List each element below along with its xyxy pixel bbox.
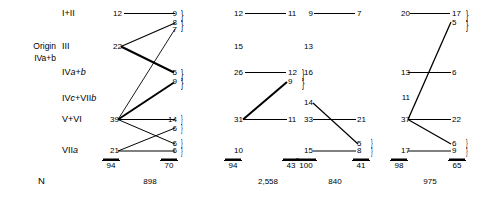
total-p1-left: 94 — [102, 160, 120, 170]
n-value-p2: 2,558 — [240, 178, 296, 186]
brace-p2-group1b: } — [302, 76, 304, 89]
total-p4-left: 98 — [390, 160, 408, 170]
cell-p3-left-3: 16 — [297, 69, 313, 77]
brace-p1-group4b: } — [181, 147, 183, 157]
link-p1-e — [118, 83, 174, 120]
link-p2-c — [243, 82, 287, 120]
cell-p2-left-1: 12 — [225, 10, 243, 18]
total-p4-right: 65 — [448, 160, 466, 170]
cell-p3-left-1: 9 — [297, 10, 313, 18]
cell-p3-left-2: 13 — [297, 43, 313, 51]
brace-p4-group2b: } — [466, 147, 468, 157]
cell-p4-right-4: 22 — [452, 116, 468, 124]
link-p4-b — [408, 22, 451, 120]
cell-p2-left-2: 15 — [225, 43, 243, 51]
link-p4-e — [408, 120, 451, 145]
row-label-i-ii: I+II — [62, 9, 75, 18]
cell-p1-right-9: 6 — [161, 147, 177, 155]
cell-p4-left-2: 13 — [392, 69, 410, 77]
cell-p3-left-6: 15 — [297, 147, 313, 155]
n-value-p3: 840 — [310, 178, 360, 186]
row-label-ivc-viib: IVc+VIIb — [62, 94, 96, 103]
flow-diagram-figure: Origin IVa+b I+II III IVa+b IVc+VIIb V+V… — [0, 0, 480, 197]
cell-p1-left-1: 12 — [104, 10, 122, 18]
cell-p4-right-3: 6 — [452, 69, 468, 77]
total-p3-left: 100 — [295, 160, 317, 170]
cell-p2-left-3: 26 — [225, 69, 243, 77]
cell-p3-right-2: 21 — [357, 116, 373, 124]
origin-axis-label-line2: IVa+b — [12, 54, 56, 63]
brace-p1-group3b: } — [181, 124, 183, 134]
cell-p4-left-3: 11 — [392, 94, 410, 102]
total-p1-right: 70 — [160, 160, 178, 170]
cell-p1-right-7: 6 — [161, 125, 177, 133]
brace-p3-group1b: } — [371, 147, 373, 157]
cell-p1-left-6: 21 — [101, 147, 119, 155]
brace-p1-group1b: } — [181, 18, 183, 31]
cell-p1-right-4: 5 — [163, 69, 177, 77]
total-p3-right: 41 — [352, 160, 370, 170]
link-p3-b — [313, 103, 358, 144]
cell-p3-left-5: 33 — [297, 116, 313, 124]
brace-p1-group2b: } — [181, 76, 183, 89]
row-label-v-vi: V+VI — [62, 115, 82, 124]
cell-p4-left-1: 20 — [392, 10, 410, 18]
cell-p4-left-4: 37 — [392, 116, 410, 124]
cell-p1-left-5: 39 — [101, 116, 119, 124]
cell-p1-right-6: 14 — [161, 116, 177, 124]
cell-p2-left-5: 10 — [225, 147, 243, 155]
brace-p4-group1b: } — [466, 18, 468, 31]
cell-p1-right-3: 7 — [163, 26, 177, 34]
n-row-label: N — [38, 176, 45, 186]
cell-p3-left-4: 14 — [297, 99, 313, 107]
n-value-p4: 975 — [405, 178, 455, 186]
total-p2-left: 94 — [224, 160, 242, 170]
cell-p1-left-2: 22 — [104, 43, 122, 51]
cell-p2-left-4: 31 — [225, 116, 243, 124]
row-label-viia: VIIa — [62, 146, 78, 155]
cell-p1-right-1: 9 — [163, 10, 177, 18]
row-label-iii: III — [62, 42, 70, 51]
origin-axis-label-line1: Origin — [12, 42, 56, 51]
cell-p3-right-1: 7 — [357, 10, 373, 18]
n-value-p1: 898 — [125, 178, 175, 186]
cell-p1-right-5: 9 — [163, 78, 177, 86]
cell-p4-left-5: 17 — [392, 147, 410, 155]
row-label-iva-b: IVa+b — [62, 68, 86, 77]
